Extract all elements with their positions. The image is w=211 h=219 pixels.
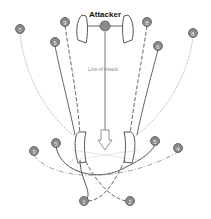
node-1: 1 [80, 197, 89, 206]
node-2: 2 [126, 197, 135, 206]
node-5-right: 5 [151, 137, 160, 146]
path-6 [137, 50, 158, 135]
path-1 [88, 160, 125, 201]
defense-diagram: Attacker Line of Attack 7 9 5 8 [0, 0, 211, 219]
node-8: 8 [189, 29, 198, 38]
path-1a [80, 160, 88, 201]
node-7: 7 [16, 25, 25, 34]
attacker-title: Attacker [89, 10, 121, 19]
down-arrow-icon [98, 130, 112, 150]
node-5-top: 5 [51, 38, 60, 47]
path-9 [65, 26, 80, 135]
line-of-attack-label: Line of Attack [88, 66, 119, 72]
node-9: 9 [61, 18, 70, 27]
node-attacker [100, 21, 110, 31]
path-5-top [55, 46, 75, 135]
node-6: 6 [154, 42, 163, 51]
node-4: 4 [174, 144, 183, 153]
path-7 [20, 33, 80, 140]
node-3-left: 3 [30, 147, 39, 156]
left-hand-icon [77, 15, 88, 43]
right-hand-icon [123, 15, 134, 43]
node-5-left: 5 [52, 139, 61, 148]
path-2 [85, 160, 126, 201]
node-8-top: 8 [143, 18, 152, 27]
path-8-top [130, 26, 147, 135]
arc-3-4 [34, 152, 178, 175]
